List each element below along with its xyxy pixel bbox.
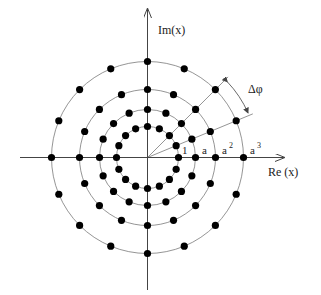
- sample-dot: [212, 86, 219, 93]
- sample-dot: [76, 86, 83, 93]
- angle-rays: [148, 77, 253, 158]
- sample-dot: [188, 172, 195, 179]
- sample-dot: [110, 188, 117, 195]
- svg-text:a: a: [222, 144, 227, 156]
- sample-dot: [96, 106, 103, 113]
- ring-label-a2: a 2: [222, 141, 233, 156]
- sample-dot: [188, 136, 195, 143]
- sample-dot: [81, 180, 88, 187]
- sample-dot: [170, 217, 177, 224]
- ring-label-a3: a 3: [250, 141, 261, 156]
- sample-dot: [144, 202, 151, 209]
- sample-dot: [144, 250, 151, 257]
- re-axis-label: Re (x): [268, 165, 298, 179]
- sample-dot: [96, 154, 103, 161]
- sample-dot: [144, 106, 151, 113]
- sample-dot: [132, 183, 139, 190]
- sample-dot: [170, 91, 177, 98]
- sample-dot: [126, 110, 133, 117]
- sample-dot: [55, 191, 62, 198]
- sample-dot: [81, 128, 88, 135]
- sample-dot: [126, 198, 133, 205]
- sample-dot: [115, 142, 122, 149]
- sample-dot: [192, 202, 199, 209]
- sample-dot: [113, 154, 120, 161]
- sample-dot: [156, 125, 163, 132]
- sample-dot: [115, 166, 122, 173]
- sample-dot: [122, 132, 129, 139]
- sample-dot: [118, 217, 125, 224]
- sample-dot: [76, 222, 83, 229]
- sample-dot: [110, 120, 117, 127]
- sample-dot: [162, 110, 169, 117]
- sample-dot: [240, 154, 247, 161]
- sample-dot: [166, 132, 173, 139]
- sample-dot: [173, 166, 180, 173]
- svg-text:2: 2: [229, 141, 233, 150]
- sample-dot: [76, 154, 83, 161]
- sample-dot: [122, 176, 129, 183]
- delta-phi-arc: [227, 82, 248, 113]
- sample-dot: [107, 243, 114, 250]
- sample-dot: [144, 123, 151, 130]
- sample-dot: [166, 176, 173, 183]
- sample-dot: [96, 202, 103, 209]
- sample-dot: [212, 154, 219, 161]
- sample-dot: [173, 142, 180, 149]
- sample-dot: [207, 180, 214, 187]
- sample-dot: [192, 154, 199, 161]
- sample-dot: [207, 128, 214, 135]
- sample-dot: [181, 65, 188, 72]
- sample-dot: [107, 65, 114, 72]
- sample-dot: [192, 106, 199, 113]
- sample-dot: [100, 136, 107, 143]
- sample-dot: [144, 185, 151, 192]
- ring-label-1: 1: [182, 144, 188, 156]
- sample-dot: [156, 183, 163, 190]
- svg-text:3: 3: [257, 141, 261, 150]
- log-polar-diagram: Δφ Im(x) Re (x) 1 a a 2 a 3: [0, 0, 321, 295]
- sample-dot: [55, 117, 62, 124]
- sample-dot: [144, 86, 151, 93]
- sample-dot: [162, 198, 169, 205]
- svg-text:a: a: [250, 144, 255, 156]
- sample-dot: [100, 172, 107, 179]
- sample-dot: [212, 222, 219, 229]
- sample-dot: [181, 243, 188, 250]
- ring-label-a: a: [202, 144, 207, 156]
- im-axis-label: Im(x): [158, 23, 185, 37]
- sample-dot: [48, 154, 55, 161]
- sample-dot: [178, 188, 185, 195]
- sample-dot: [144, 58, 151, 65]
- sample-dot: [118, 91, 125, 98]
- delta-phi-label: Δφ: [248, 82, 263, 96]
- sample-dot: [233, 117, 240, 124]
- sample-dot: [144, 222, 151, 229]
- delta-phi-annotation: Δφ: [227, 82, 262, 113]
- sample-dot: [132, 125, 139, 132]
- sample-dot: [178, 120, 185, 127]
- sample-dot: [233, 191, 240, 198]
